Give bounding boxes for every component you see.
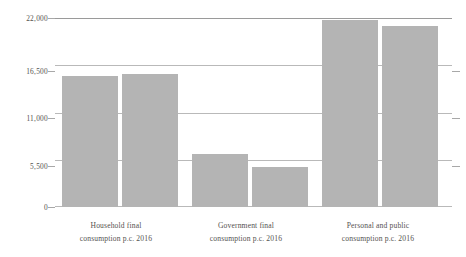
y-tick-mark-5500 xyxy=(48,166,55,167)
x-axis-category-household-line2: consumption p.c. 2016 xyxy=(52,232,180,245)
x-axis-category-household-line1: Household final xyxy=(52,219,180,232)
x-axis-category-government-line1: Government final xyxy=(182,219,310,232)
y-tick-mark-right-11000 xyxy=(452,118,460,119)
x-axis-category-personal-public: Personal and public consumption p.c. 201… xyxy=(312,219,444,245)
x-axis-category-government-line2: consumption p.c. 2016 xyxy=(182,232,310,245)
y-tick-mark-22000 xyxy=(48,18,55,19)
y-axis-tick-label-0: 0 xyxy=(4,203,48,212)
y-tick-mark-0 xyxy=(48,207,55,208)
bar-household-series-1[interactable] xyxy=(62,76,118,207)
x-axis-category-personal-public-line1: Personal and public xyxy=(312,219,444,232)
y-tick-mark-16500 xyxy=(48,71,55,72)
x-axis-category-government: Government final consumption p.c. 2016 xyxy=(182,219,310,245)
y-axis-tick-label-22000: 22,000 xyxy=(4,14,48,23)
plot-area xyxy=(55,18,452,207)
gridline-22000 xyxy=(55,18,452,19)
y-axis-tick-label-16500: 16,500 xyxy=(4,67,48,76)
bar-government-series-2[interactable] xyxy=(252,167,308,207)
x-axis-category-household: Household final consumption p.c. 2016 xyxy=(52,219,180,245)
bar-personal-public-series-1[interactable] xyxy=(322,20,378,207)
y-tick-mark-right-16500 xyxy=(452,71,460,72)
x-axis-category-personal-public-line2: consumption p.c. 2016 xyxy=(312,232,444,245)
bar-government-series-1[interactable] xyxy=(192,154,248,207)
y-tick-mark-11000 xyxy=(48,118,55,119)
bar-chart: 22,000 16,500 11,000 5,500 0 Household f… xyxy=(0,0,466,257)
bar-personal-public-series-2[interactable] xyxy=(382,26,438,207)
y-tick-mark-right-5500 xyxy=(452,166,460,167)
y-axis-tick-label-11000: 11,000 xyxy=(4,114,48,123)
bar-household-series-2[interactable] xyxy=(122,74,178,207)
y-axis-tick-label-5500: 5,500 xyxy=(4,162,48,171)
